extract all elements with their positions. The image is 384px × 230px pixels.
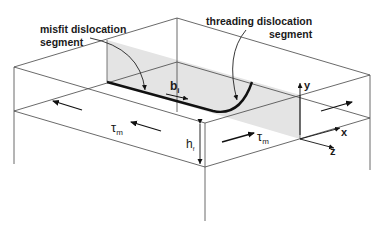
- stress-arrow-left-front: [131, 122, 161, 131]
- stress-arrow-left-top: [53, 101, 82, 110]
- film-thickness-label: hf: [186, 138, 194, 150]
- burgers-vector-label: bi: [170, 80, 180, 92]
- threading-label: threading dislocation segment: [206, 16, 312, 39]
- x-axis-arrow: [300, 128, 340, 139]
- stress-label-left: τm: [111, 121, 123, 134]
- film-box: [14, 18, 370, 221]
- dislocation-diagram: misfit dislocation segment threading dis…: [0, 0, 384, 230]
- axis-x-label: x: [341, 127, 347, 138]
- stress-arrow-right-top: [321, 102, 352, 111]
- misfit-label: misfit dislocation segment: [40, 24, 126, 47]
- axis-y-label: y: [304, 80, 310, 91]
- z-axis-arrow: [300, 139, 334, 148]
- stress-label-right: τm: [257, 130, 269, 143]
- stress-arrow-right-front: [222, 133, 254, 142]
- axis-z-label: z: [330, 146, 336, 157]
